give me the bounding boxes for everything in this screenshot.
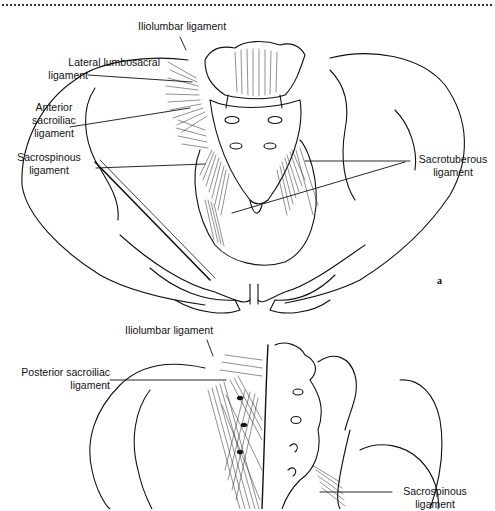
panel-b-ligament-fibers bbox=[208, 355, 345, 509]
label-text: Posterior sacroiliac bbox=[4, 366, 110, 379]
label-text: Iliolumbar ligament bbox=[138, 20, 226, 33]
panel-a-anterior-pelvis bbox=[22, 42, 465, 313]
panel-b-posterior-pelvis bbox=[90, 343, 442, 509]
label-text: ligament bbox=[16, 69, 160, 82]
label-text: Iliolumbar ligament bbox=[125, 324, 213, 337]
label-a-sacrotuberous-ligament: Sacrotuberous ligament bbox=[414, 153, 492, 179]
label-a-sacrospinous-ligament: Sacrospinous ligament bbox=[14, 151, 84, 177]
label-a-anterior-sacroiliac-ligament: Anterior sacroiliac ligament bbox=[22, 101, 86, 140]
label-b-sacrospinous-ligament: Sacrospinous ligament bbox=[394, 485, 476, 511]
label-b-iliolumbar-ligament: Iliolumbar ligament bbox=[125, 324, 213, 337]
label-a-lateral-lumbosacral-ligament: Lateral lumbosacral ligament bbox=[16, 56, 160, 82]
label-text: Anterior bbox=[22, 101, 86, 114]
label-text: ligament bbox=[4, 379, 110, 392]
label-text: ligament bbox=[22, 127, 86, 140]
label-text: ligament bbox=[394, 498, 476, 511]
label-text: Sacrospinous bbox=[394, 485, 476, 498]
label-text: sacroiliac bbox=[22, 114, 86, 127]
label-text: Sacrospinous bbox=[14, 151, 84, 164]
label-text: Lateral lumbosacral bbox=[16, 56, 160, 69]
label-a-iliolumbar-ligament: Iliolumbar ligament bbox=[138, 20, 226, 33]
label-text: ligament bbox=[14, 164, 84, 177]
label-b-posterior-sacroiliac-ligament: Posterior sacroiliac ligament bbox=[4, 366, 110, 392]
panel-letter-a: a bbox=[437, 275, 442, 286]
label-text: ligament bbox=[414, 166, 492, 179]
label-text: Sacrotuberous bbox=[414, 153, 492, 166]
